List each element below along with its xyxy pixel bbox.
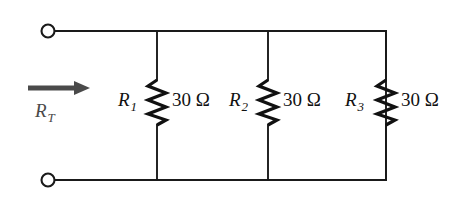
r2-label: R2 [228,89,249,114]
rt-symbol: R [34,100,47,121]
circuit-diagram: RT R1 30 Ω R2 30 Ω R3 30 Ω [0,0,468,206]
bottom-terminal-post[interactable] [42,174,55,187]
r2-resistor-symbol [259,80,277,125]
r3-label: R3 [344,89,365,114]
right-arrow-icon [28,81,90,95]
r3-symbol: R [344,89,357,110]
r2-symbol: R [228,89,241,110]
top-terminal-post[interactable] [42,25,55,38]
r2-value: 30 Ω [283,89,321,110]
r1-label: R1 [117,89,137,114]
r1-symbol: R [117,89,130,110]
r2-subscript: 2 [242,99,249,114]
rt-subscript: T [48,110,56,125]
r3-subscript: 3 [357,99,365,114]
r3-value: 30 Ω [401,89,439,110]
rt-label: RT [34,100,56,125]
circuit-canvas: RT R1 30 Ω R2 30 Ω R3 30 Ω [0,0,468,206]
r1-resistor-symbol [148,80,166,125]
r1-value: 30 Ω [172,89,210,110]
r1-subscript: 1 [131,99,138,114]
